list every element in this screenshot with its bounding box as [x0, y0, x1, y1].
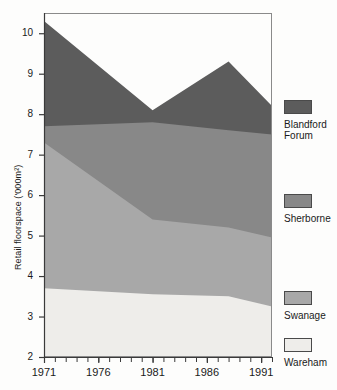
- legend-label: Blandford: [284, 119, 337, 130]
- x-tick-label: 1976: [78, 366, 118, 378]
- y-tick-label: 6: [13, 189, 33, 200]
- x-tick-label: 1971: [24, 366, 64, 378]
- x-tick-label: 1986: [187, 366, 227, 378]
- y-tick-label: 4: [13, 270, 33, 281]
- legend-swatch: [284, 338, 312, 352]
- area-wareham: [44, 288, 272, 357]
- legend-swatch: [284, 194, 312, 208]
- legend-swatch: [284, 100, 312, 114]
- y-tick-label: 10: [13, 27, 33, 38]
- legend-swatch: [284, 291, 312, 305]
- y-axis-title: Retail floorspace ('000m²): [13, 165, 23, 270]
- y-tick-label: 3: [13, 311, 33, 322]
- x-tick-label: 1981: [133, 366, 173, 378]
- x-tick-label: 1991: [241, 366, 281, 378]
- y-tick-label: 5: [13, 230, 33, 241]
- y-tick-label: 9: [13, 68, 33, 79]
- y-tick-label: 2: [13, 351, 33, 362]
- legend-label: Wareham: [284, 357, 337, 368]
- legend-label-cont: Forum: [284, 130, 337, 141]
- y-tick-label: 8: [13, 108, 33, 119]
- legend-label: Sherborne: [284, 213, 337, 224]
- y-tick-label: 7: [13, 149, 33, 160]
- legend-label: Swanage: [284, 310, 337, 321]
- chart-figure: Retail floorspace ('000m²) 2345678910 19…: [0, 0, 337, 390]
